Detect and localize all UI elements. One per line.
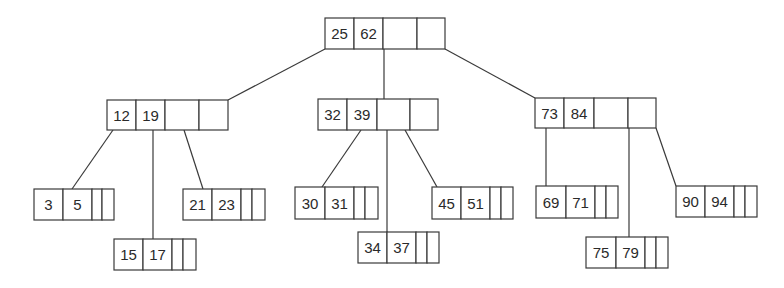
key-label: 15 — [120, 246, 137, 263]
edge-n3-l9 — [656, 128, 676, 186]
key-label: 3 — [44, 196, 52, 213]
key-label: 25 — [331, 25, 348, 42]
tree-node-l1: 35 — [34, 189, 114, 220]
empty-cell — [241, 189, 252, 220]
tree-node-l6: 4551 — [432, 187, 513, 219]
empty-cell — [183, 239, 196, 270]
tree-node-l5: 3437 — [358, 232, 439, 263]
tree-node-n3: 7384 — [535, 98, 656, 128]
key-label: 31 — [331, 195, 348, 212]
key-label: 71 — [572, 194, 589, 211]
key-label: 37 — [393, 239, 410, 256]
key-label: 45 — [438, 195, 455, 212]
empty-cell — [501, 187, 513, 219]
empty-cell — [92, 189, 102, 220]
edge-root-n1 — [228, 49, 325, 100]
tree-node-l4: 3031 — [295, 187, 378, 219]
tree-node-l7: 6971 — [536, 186, 618, 218]
empty-cell — [417, 18, 445, 49]
empty-cell — [252, 189, 265, 220]
tree-nodes: 2562121932397384351517212330313437455169… — [34, 18, 757, 270]
empty-cell — [416, 232, 427, 263]
key-label: 69 — [543, 194, 560, 211]
key-label: 94 — [711, 193, 728, 210]
key-label: 73 — [541, 105, 558, 122]
empty-cell — [628, 98, 656, 128]
empty-cell — [427, 232, 439, 263]
edge-n2-l4 — [322, 130, 361, 187]
tree-node-l2: 1517 — [114, 239, 196, 270]
key-label: 17 — [149, 246, 166, 263]
empty-cell — [354, 187, 365, 219]
empty-cell — [383, 18, 417, 49]
key-label: 5 — [73, 196, 81, 213]
empty-cell — [102, 189, 114, 220]
empty-cell — [410, 99, 438, 130]
tree-node-l3: 2123 — [183, 189, 265, 220]
key-label: 12 — [113, 107, 130, 124]
key-label: 34 — [364, 239, 381, 256]
tree-node-l8: 7579 — [586, 237, 668, 268]
empty-cell — [490, 187, 501, 219]
key-label: 84 — [571, 105, 588, 122]
key-label: 51 — [467, 195, 484, 212]
key-label: 30 — [302, 195, 319, 212]
tree-node-n2: 3239 — [318, 99, 438, 130]
key-label: 23 — [218, 196, 235, 213]
empty-cell — [365, 187, 378, 219]
edge-n1-l1 — [72, 130, 113, 189]
empty-cell — [734, 186, 745, 217]
edge-root-n3 — [445, 49, 535, 98]
key-label: 90 — [682, 193, 699, 210]
empty-cell — [745, 186, 757, 217]
key-label: 32 — [324, 106, 341, 123]
empty-cell — [595, 186, 606, 218]
b-tree-diagram: 2562121932397384351517212330313437455169… — [0, 0, 784, 288]
empty-cell — [199, 100, 228, 130]
empty-cell — [172, 239, 183, 270]
key-label: 19 — [142, 107, 159, 124]
tree-node-root: 2562 — [325, 18, 445, 49]
tree-node-n1: 1219 — [107, 100, 228, 130]
empty-cell — [656, 237, 668, 268]
empty-cell — [606, 186, 618, 218]
tree-node-l9: 9094 — [676, 186, 757, 217]
edge-n1-l3 — [184, 130, 203, 189]
edge-n2-l6 — [405, 130, 437, 187]
key-label: 21 — [189, 196, 206, 213]
key-label: 39 — [354, 106, 371, 123]
empty-cell — [377, 99, 410, 130]
key-label: 75 — [593, 244, 610, 261]
key-label: 79 — [622, 244, 639, 261]
key-label: 62 — [360, 25, 377, 42]
empty-cell — [645, 237, 656, 268]
empty-cell — [594, 98, 628, 128]
empty-cell — [165, 100, 199, 130]
